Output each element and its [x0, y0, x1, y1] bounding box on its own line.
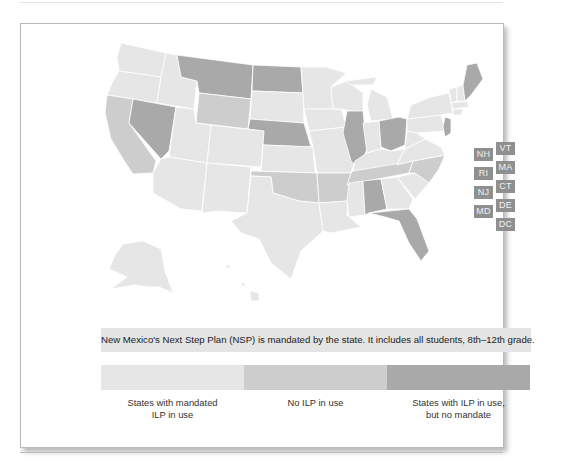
legend-swatch-ilp-no-mandate [387, 365, 530, 390]
legend-swatch-mandated [101, 365, 244, 390]
label-de[interactable]: DE [496, 199, 515, 212]
state-wi[interactable] [331, 81, 363, 113]
label-vt[interactable]: VT [496, 142, 515, 155]
state-ny[interactable] [407, 93, 453, 119]
legend-label-no-ilp: No ILP in use [244, 397, 387, 421]
figure-card: NH VT RI MA NJ CT MD DE DC New Mexico's … [20, 23, 504, 448]
state-ms[interactable] [347, 181, 365, 217]
state-nd[interactable] [252, 65, 303, 93]
label-dc[interactable]: DC [496, 218, 515, 231]
legend-swatch-no-ilp [244, 365, 387, 390]
state-sd[interactable] [250, 91, 304, 123]
bottom-divider [20, 452, 503, 453]
state-ks[interactable] [261, 145, 315, 173]
state-fl[interactable] [369, 209, 429, 261]
label-ct[interactable]: CT [496, 180, 515, 193]
label-ma[interactable]: MA [496, 161, 515, 174]
state-ar[interactable] [317, 173, 351, 203]
state-wy[interactable] [196, 93, 251, 129]
top-divider [20, 2, 503, 3]
label-md[interactable]: MD [474, 205, 493, 218]
state-oh[interactable] [379, 117, 407, 151]
label-nh[interactable]: NH [474, 148, 493, 161]
label-nj[interactable]: NJ [474, 186, 493, 199]
state-nj[interactable] [443, 117, 451, 137]
legend-label-mandated: States with mandated ILP in use [101, 397, 244, 421]
state-co[interactable] [207, 125, 264, 167]
state-az[interactable] [153, 157, 207, 211]
state-nm[interactable] [202, 163, 251, 213]
legend-bar [101, 365, 530, 390]
state-ak[interactable] [109, 241, 173, 293]
state-ct[interactable] [453, 109, 463, 115]
map-note: New Mexico's Next Step Plan (NSP) is man… [101, 328, 531, 352]
us-map [21, 24, 503, 324]
state-hi[interactable] [226, 265, 259, 301]
label-ri[interactable]: RI [474, 167, 493, 180]
state-me[interactable] [463, 63, 483, 101]
legend-label-ilp-no-mandate: States with ILP in use, but no mandate [387, 397, 530, 421]
legend-labels: States with mandated ILP in use No ILP i… [101, 397, 530, 421]
